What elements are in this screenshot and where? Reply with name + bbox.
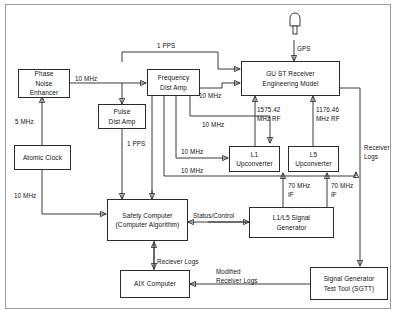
block-line: Upconverter: [236, 159, 273, 169]
label-10mhz-clock-to-safety: 10 MHz: [14, 191, 36, 200]
block-line: (Computer Algorithm): [116, 220, 180, 230]
block-l1l5-signal-generator[interactable]: L1/L5 Signal Generator: [249, 207, 334, 238]
label-10mhz-phase-to-freq: 10 MHz: [75, 74, 97, 83]
label-line: MHz RF: [257, 114, 281, 123]
block-line: Pulse: [114, 107, 131, 117]
label-line: Modified: [216, 267, 258, 276]
label-gps: GPS: [297, 44, 311, 53]
label-line: IF: [331, 190, 353, 199]
label-line: 70 MHz: [288, 181, 310, 190]
block-line: Generator: [276, 223, 306, 233]
block-line: GU ST Receiver: [266, 69, 315, 79]
label-line: Receiver Logs: [216, 276, 258, 285]
block-line: Phase: [35, 69, 54, 79]
block-line: Enhancer: [30, 88, 59, 98]
label-line: 70 MHz: [331, 181, 353, 190]
block-frequency-dist-amp[interactable]: Frequency Dist Amp: [147, 69, 200, 96]
label-line: MHz RF: [316, 114, 340, 123]
label-line: IF: [288, 190, 310, 199]
label-receiver-logs-center: Reciever Logs: [157, 257, 199, 266]
block-phase-noise-enhancer[interactable]: Phase Noise Enhancer: [18, 69, 70, 98]
label-rf-l5: 1176.46 MHz RF: [316, 105, 340, 123]
label-if-l1: 70 MHz IF: [288, 181, 310, 199]
diagram-canvas: Phase Noise Enhancer Atomic Clock Freque…: [0, 0, 396, 314]
block-atomic-clock[interactable]: Atomic Clock: [14, 145, 71, 170]
block-line: L5: [310, 150, 317, 160]
block-line: Test Tool (SGTT): [324, 284, 375, 294]
block-line: AIX Computer: [134, 279, 176, 289]
block-line: Noise: [35, 79, 52, 89]
label-line: Receiver: [364, 143, 390, 152]
label-1pps-top: 1 PPS: [157, 41, 175, 50]
label-10mhz-freq-to-receiver: 10 MHz: [199, 91, 221, 100]
label-5mhz-clock-to-phase: 5 MHz: [15, 117, 34, 126]
gps-antenna-icon: [284, 12, 306, 42]
block-line: Dist Amp: [109, 117, 136, 127]
label-if-l5: 70 MHz IF: [331, 181, 353, 199]
block-l5-upconverter[interactable]: L5 Upconverter: [288, 146, 339, 172]
block-safety-computer[interactable]: Safety Computer (Computer Algorithm): [107, 199, 188, 241]
block-line: Dist Amp: [160, 83, 187, 93]
label-line: Logs: [364, 152, 390, 161]
block-line: Upconverter: [295, 159, 332, 169]
block-line: Safety Computer: [122, 211, 172, 221]
block-line: Frequency: [158, 73, 190, 83]
block-line: L1: [251, 150, 258, 160]
label-1pps-pulse: 1 PPS: [127, 139, 145, 148]
label-line: 1575.42: [257, 105, 281, 114]
block-sgtt[interactable]: Signal Generator Test Tool (SGTT): [310, 267, 388, 300]
label-10mhz-freq-l5: 10 MHz: [181, 166, 203, 175]
label-10mhz-freq-b: 10 MHz: [202, 120, 224, 129]
label-modified-receiver-logs: Modified Receiver Logs: [216, 267, 258, 285]
label-receiver-logs-right: Receiver Logs: [364, 143, 390, 161]
block-line: Atomic Clock: [23, 153, 62, 163]
block-line: Signal Generator: [324, 274, 375, 284]
block-gust-receiver[interactable]: GU ST Receiver Engineering Model: [241, 61, 340, 96]
label-line: 1176.46: [316, 105, 340, 114]
label-rf-l1: 1575.42 MHz RF: [257, 105, 281, 123]
block-aix-computer[interactable]: AIX Computer: [120, 270, 190, 298]
block-l1-upconverter[interactable]: L1 Upconverter: [229, 146, 280, 172]
label-status-control: Status/Control: [193, 211, 234, 220]
block-line: L1/L5 Signal: [273, 213, 310, 223]
block-pulse-dist-amp[interactable]: Pulse Dist Amp: [98, 104, 146, 129]
block-line: Engineering Model: [263, 79, 319, 89]
label-10mhz-freq-l1: 10 MHz: [181, 147, 203, 156]
